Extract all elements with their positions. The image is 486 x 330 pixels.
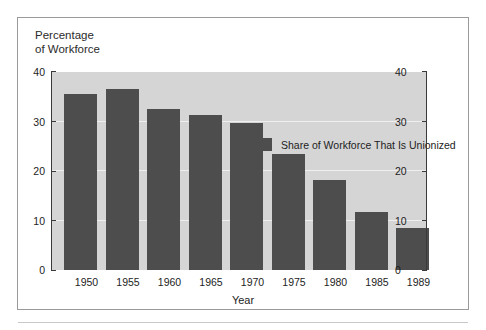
plot-area: Share of Workforce That Is Unionized — [52, 72, 426, 270]
bar-1965[interactable] — [189, 115, 222, 270]
bar-1955[interactable] — [106, 89, 139, 270]
y-tick-left-10 — [51, 220, 56, 221]
legend-swatch-unionized — [259, 138, 272, 151]
bottom-divider — [18, 322, 468, 323]
y-label-right-0: 0 — [395, 265, 401, 275]
y-label-left-30: 30 — [33, 117, 45, 127]
y-label-right-20: 20 — [395, 166, 407, 176]
bar-1950[interactable] — [64, 94, 97, 270]
y-label-right-30: 30 — [395, 117, 407, 127]
y-label-left-10: 10 — [33, 216, 45, 226]
y-tick-right-10 — [422, 220, 427, 221]
y-tick-left-20 — [51, 171, 56, 172]
y-axis-right-bottom-cap — [422, 270, 427, 271]
x-label-1985: 1985 — [357, 276, 397, 288]
y-label-right-10: 10 — [395, 216, 407, 226]
x-label-1989: 1989 — [399, 276, 439, 288]
y-axis-left-bottom-cap — [51, 270, 56, 271]
bar-1980[interactable] — [313, 180, 346, 270]
x-label-1980: 1980 — [316, 276, 356, 288]
y-axis-right-top-cap — [422, 71, 427, 72]
x-label-1950: 1950 — [67, 276, 107, 288]
bar-1960[interactable] — [147, 109, 180, 270]
y-label-left-20: 20 — [33, 166, 45, 176]
chart-figure: Percentage of Workforce Share of Workfor… — [17, 17, 469, 310]
x-label-1975: 1975 — [274, 276, 314, 288]
y-label-right-40: 40 — [395, 67, 407, 77]
y-axis-title: Percentage of Workforce — [35, 28, 100, 56]
x-label-1970: 1970 — [233, 276, 273, 288]
y-axis-left-top-cap — [51, 71, 56, 72]
x-axis-title: Year — [18, 294, 468, 306]
bar-1985[interactable] — [355, 212, 388, 270]
bar-1975[interactable] — [272, 154, 305, 270]
legend-label-unionized: Share of Workforce That Is Unionized — [281, 139, 456, 151]
y-tick-right-30 — [422, 121, 427, 122]
y-tick-left-30 — [51, 121, 56, 122]
y-tick-right-20 — [422, 171, 427, 172]
x-label-1965: 1965 — [191, 276, 231, 288]
x-label-1955: 1955 — [108, 276, 148, 288]
y-label-left-40: 40 — [33, 67, 45, 77]
y-label-left-0: 0 — [39, 265, 45, 275]
x-label-1960: 1960 — [150, 276, 190, 288]
